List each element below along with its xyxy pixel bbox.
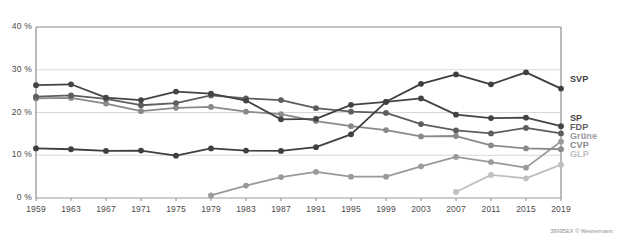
data-point — [278, 148, 284, 154]
y-tick-label: 0 % — [0, 192, 32, 202]
x-tick-label: 2003 — [401, 204, 441, 214]
x-tick-label: 2011 — [471, 204, 511, 214]
data-point — [348, 123, 354, 129]
legend-label-glp: GLP — [570, 149, 589, 159]
data-point — [348, 109, 354, 115]
x-tick-label: 1983 — [226, 204, 266, 214]
line-chart-plot — [0, 0, 617, 237]
data-point — [523, 175, 529, 181]
data-point — [278, 116, 284, 122]
data-point — [33, 94, 39, 100]
data-point — [453, 154, 459, 160]
data-point — [348, 131, 354, 137]
data-point — [418, 121, 424, 127]
series-glp — [453, 162, 564, 195]
y-tick-label: 40 % — [0, 21, 32, 31]
data-point — [208, 193, 214, 199]
data-point — [313, 144, 319, 150]
data-point — [488, 115, 494, 121]
grid-lines — [36, 27, 561, 198]
data-point — [488, 172, 494, 178]
data-point — [313, 105, 319, 111]
x-tick-label: 1995 — [331, 204, 371, 214]
data-point — [558, 162, 564, 168]
data-point — [68, 81, 74, 87]
data-point — [418, 81, 424, 87]
data-point — [173, 153, 179, 159]
y-tick-label: 20 % — [0, 107, 32, 117]
data-point — [278, 111, 284, 117]
data-point — [488, 131, 494, 137]
data-point — [138, 148, 144, 154]
data-point — [418, 163, 424, 169]
data-point — [33, 146, 39, 152]
data-point — [103, 95, 109, 101]
data-point — [453, 189, 459, 195]
data-point — [138, 102, 144, 108]
data-point — [383, 99, 389, 105]
x-tick-label: 1975 — [156, 204, 196, 214]
data-point — [488, 81, 494, 87]
data-point — [33, 82, 39, 88]
x-tick-label: 1979 — [191, 204, 231, 214]
data-point — [383, 174, 389, 180]
data-point — [558, 139, 564, 145]
y-tick-label: 30 % — [0, 64, 32, 74]
data-point — [208, 91, 214, 97]
data-point — [523, 146, 529, 152]
data-point — [313, 116, 319, 122]
data-point — [103, 148, 109, 154]
data-point — [523, 115, 529, 121]
data-point — [278, 174, 284, 180]
data-point — [523, 125, 529, 131]
data-point — [138, 97, 144, 103]
x-tick-label: 1999 — [366, 204, 406, 214]
data-point — [208, 104, 214, 110]
legend-label-svp: SVP — [570, 74, 588, 84]
data-point — [558, 86, 564, 92]
data-point — [453, 72, 459, 78]
data-point — [453, 133, 459, 139]
x-tick-label: 1971 — [121, 204, 161, 214]
x-tick-label: 1963 — [51, 204, 91, 214]
data-point — [558, 146, 564, 152]
chart-container: 0 %10 %20 %30 %40 % 19591963196719711975… — [0, 0, 617, 237]
x-tick-label: 1959 — [16, 204, 56, 214]
data-point — [418, 95, 424, 101]
data-point — [383, 127, 389, 133]
x-tick-label: 1991 — [296, 204, 336, 214]
data-point — [488, 159, 494, 165]
data-point — [348, 174, 354, 180]
data-point — [523, 69, 529, 75]
x-tick-label: 2007 — [436, 204, 476, 214]
x-tick-label: 2019 — [541, 204, 581, 214]
data-point — [558, 131, 564, 137]
data-point — [173, 100, 179, 106]
data-point — [243, 109, 249, 115]
data-point — [313, 169, 319, 175]
data-point — [68, 93, 74, 99]
data-point — [348, 102, 354, 108]
x-tick-label: 1967 — [86, 204, 126, 214]
series-fdp — [33, 93, 564, 137]
copyright-credit: 39995EX © Westermann — [550, 228, 613, 234]
data-point — [173, 89, 179, 95]
data-point — [488, 143, 494, 149]
data-point — [243, 98, 249, 104]
data-point — [208, 146, 214, 152]
data-point — [558, 123, 564, 129]
data-point — [278, 97, 284, 103]
data-point — [383, 110, 389, 116]
data-point — [418, 134, 424, 140]
data-point — [243, 183, 249, 189]
series-svp — [33, 69, 564, 158]
data-point — [68, 146, 74, 152]
data-point — [523, 165, 529, 171]
x-tick-label: 1987 — [261, 204, 301, 214]
x-tick-label: 2015 — [506, 204, 546, 214]
data-point — [453, 128, 459, 134]
data-point — [453, 112, 459, 118]
data-point — [243, 148, 249, 154]
data-point — [138, 108, 144, 114]
y-tick-label: 10 % — [0, 149, 32, 159]
